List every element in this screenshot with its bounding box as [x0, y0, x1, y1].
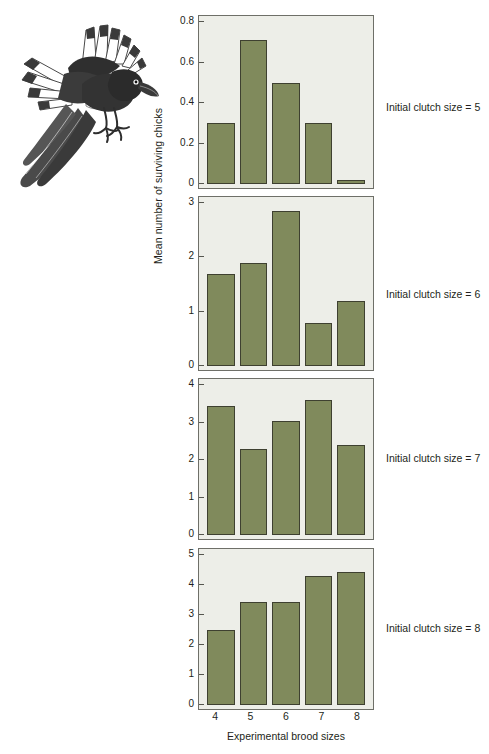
- bar-slot: [305, 22, 333, 184]
- bar-5[interactable]: [240, 449, 268, 535]
- bar-6[interactable]: [272, 211, 300, 366]
- bar-slot: [305, 555, 333, 705]
- bar-5[interactable]: [240, 263, 268, 366]
- y-axis-tick: 0.8: [199, 21, 204, 22]
- bar-6[interactable]: [272, 83, 300, 184]
- bar-slot: [240, 22, 268, 184]
- y-axis-tick: 5: [199, 554, 204, 555]
- panel-caption-1: Initial clutch size = 5: [386, 101, 480, 113]
- y-axis-tick-label: 4: [188, 579, 194, 589]
- y-axis-tick: 4: [199, 584, 204, 585]
- x-axis-tick-label-4: 4: [200, 710, 230, 724]
- bar-slot: [337, 203, 365, 366]
- y-axis-tick-label: 1: [188, 492, 194, 502]
- y-axis-tick: 3: [199, 202, 204, 203]
- y-axis-tick-label: 0: [188, 529, 194, 539]
- figure-root: Mean number of surviving chicks 00.20.40…: [0, 0, 489, 754]
- y-axis-tick: 1: [199, 674, 204, 675]
- y-axis-tick: 0: [199, 704, 204, 705]
- x-axis-tick-label-6: 6: [271, 710, 301, 724]
- plot-area: 00.20.40.60.8: [205, 22, 367, 184]
- y-axis-tick-label: 5: [188, 549, 194, 559]
- chart-panel-4: 012345: [198, 548, 374, 710]
- bar-4[interactable]: [207, 406, 235, 535]
- bar-7[interactable]: [305, 576, 333, 705]
- bar-4[interactable]: [207, 274, 235, 366]
- y-axis-tick-label: 0.2: [180, 138, 194, 148]
- y-axis-tick: 4: [199, 384, 204, 385]
- bar-8[interactable]: [337, 301, 365, 366]
- bar-slot: [305, 385, 333, 535]
- y-axis-tick: 0.6: [199, 62, 204, 63]
- panel-caption-2: Initial clutch size = 6: [386, 288, 480, 300]
- bar-7[interactable]: [305, 400, 333, 535]
- panel-caption-4: Initial clutch size = 8: [386, 622, 480, 634]
- bar-7[interactable]: [305, 323, 333, 366]
- bar-slot: [272, 22, 300, 184]
- y-axis-tick: 0: [199, 534, 204, 535]
- y-axis-tick-label: 2: [188, 454, 194, 464]
- bar-8[interactable]: [337, 180, 365, 184]
- plot-area: 0123: [205, 203, 367, 366]
- bar-4[interactable]: [207, 630, 235, 705]
- y-axis-tick: 2: [199, 644, 204, 645]
- bar-slot: [240, 385, 268, 535]
- bar-slot: [272, 385, 300, 535]
- bar-slot: [240, 555, 268, 705]
- y-axis-tick-label: 3: [188, 197, 194, 207]
- bar-8[interactable]: [337, 445, 365, 535]
- magpie-bird-illustration: [8, 8, 160, 198]
- bar-group: [205, 203, 367, 366]
- y-axis-tick: 2: [199, 256, 204, 257]
- bar-6[interactable]: [272, 421, 300, 535]
- y-axis-tick: 3: [199, 614, 204, 615]
- bar-slot: [207, 22, 235, 184]
- x-axis-tick-row: 45678: [198, 710, 374, 724]
- bar-slot: [337, 385, 365, 535]
- y-axis-tick-label: 2: [188, 639, 194, 649]
- bar-slot: [272, 555, 300, 705]
- bar-7[interactable]: [305, 123, 333, 184]
- bar-4[interactable]: [207, 123, 235, 184]
- y-axis-tick-label: 1: [188, 306, 194, 316]
- y-axis-tick-label: 0.4: [180, 97, 194, 107]
- y-axis-tick: 2: [199, 459, 204, 460]
- y-axis-tick-label: 3: [188, 417, 194, 427]
- bar-6[interactable]: [272, 602, 300, 706]
- x-axis-tick-label-8: 8: [342, 710, 372, 724]
- y-axis-tick-label: 0: [188, 178, 194, 188]
- bar-5[interactable]: [240, 602, 268, 706]
- bar-slot: [272, 203, 300, 366]
- x-axis-tick-label-7: 7: [306, 710, 336, 724]
- y-axis-tick: 0.2: [199, 143, 204, 144]
- y-axis-tick: 3: [199, 422, 204, 423]
- chart-panel-3: 01234: [198, 378, 374, 540]
- y-axis-tick: 0: [199, 365, 204, 366]
- y-axis-tick-label: 0: [188, 699, 194, 709]
- y-axis-tick: 1: [199, 311, 204, 312]
- bar-slot: [207, 385, 235, 535]
- bar-8[interactable]: [337, 572, 365, 706]
- bar-slot: [305, 203, 333, 366]
- y-axis-tick: 0: [199, 183, 204, 184]
- x-axis-tick-label-5: 5: [235, 710, 265, 724]
- x-axis-title: Experimental brood sizes: [198, 730, 374, 742]
- bar-group: [205, 22, 367, 184]
- bar-group: [205, 555, 367, 705]
- panel-caption-3: Initial clutch size = 7: [386, 452, 480, 464]
- y-axis-tick-label: 3: [188, 609, 194, 619]
- y-axis-tick-label: 0: [188, 360, 194, 370]
- chart-panel-1: 00.20.40.60.8: [198, 15, 374, 189]
- y-axis-tick-label: 1: [188, 669, 194, 679]
- y-axis-tick-label: 4: [188, 379, 194, 389]
- y-axis-tick-label: 0.8: [180, 16, 194, 26]
- bar-group: [205, 385, 367, 535]
- bar-slot: [240, 203, 268, 366]
- bar-5[interactable]: [240, 40, 268, 184]
- bar-slot: [337, 22, 365, 184]
- y-axis-tick-label: 0.6: [180, 57, 194, 67]
- y-axis-title: Mean number of surviving chicks: [152, 0, 170, 264]
- bar-slot: [207, 203, 235, 366]
- bar-slot: [207, 555, 235, 705]
- chart-panel-2: 0123: [198, 196, 374, 371]
